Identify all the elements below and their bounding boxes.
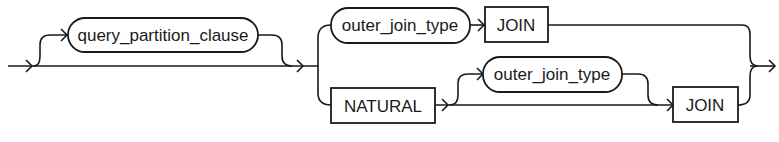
optional-branch-out xyxy=(258,35,292,66)
svg-text:outer_join_type: outer_join_type xyxy=(342,16,458,35)
bottom-exit-line xyxy=(738,66,758,105)
node-join-bottom[interactable]: JOIN xyxy=(673,87,738,122)
branch-split xyxy=(318,25,331,105)
bottom-optional-out xyxy=(622,74,658,105)
svg-text:JOIN: JOIN xyxy=(497,16,536,35)
svg-text:query_partition_clause: query_partition_clause xyxy=(77,26,248,45)
node-natural[interactable]: NATURAL xyxy=(331,88,435,123)
node-outer-join-type-bottom[interactable]: outer_join_type xyxy=(483,57,622,92)
syntax-diagram: query_partition_clause outer_join_type J… xyxy=(0,0,779,142)
node-outer-join-type-top[interactable]: outer_join_type xyxy=(331,8,470,43)
svg-text:outer_join_type: outer_join_type xyxy=(494,65,610,84)
node-join-top[interactable]: JOIN xyxy=(485,7,548,42)
svg-text:JOIN: JOIN xyxy=(686,96,725,115)
node-query-partition-clause[interactable]: query_partition_clause xyxy=(68,18,258,52)
svg-text:NATURAL: NATURAL xyxy=(344,97,422,116)
